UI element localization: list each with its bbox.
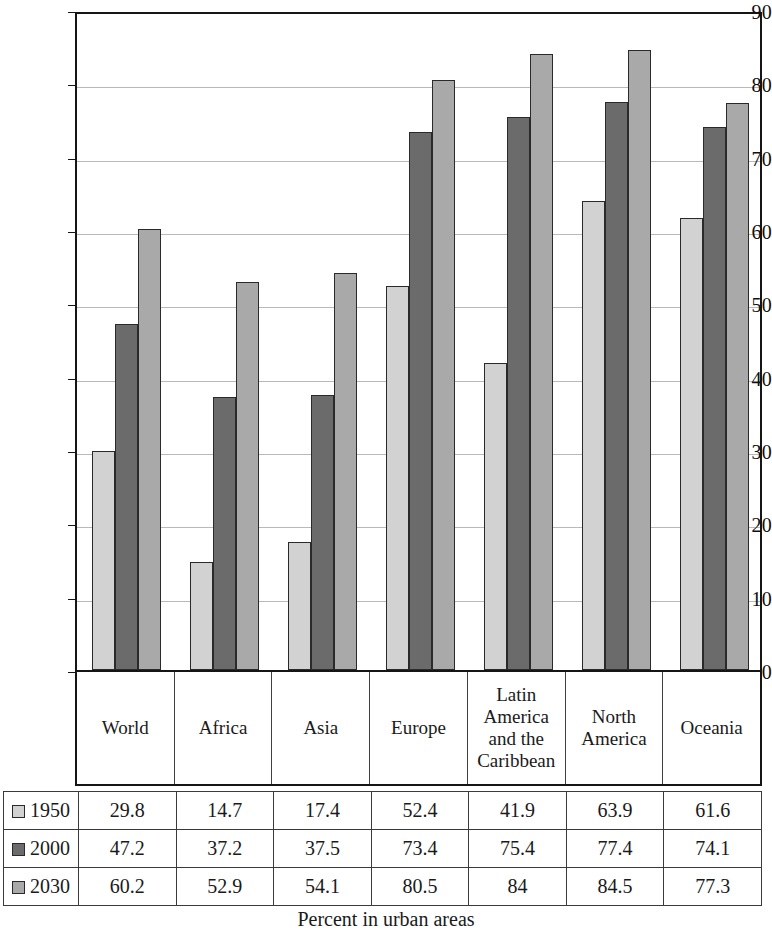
bar [530,54,553,670]
table-cell-value: 63.9 [566,792,664,830]
category-cell: Oceania [663,672,760,784]
table-cell-value: 41.9 [469,792,567,830]
y-tick-mark-60 [68,232,75,233]
table-cell-value: 17.4 [274,792,372,830]
y-tick-mark-30 [68,452,75,453]
bar [628,50,651,670]
legend-cell-2000: 2000 [4,830,79,868]
category-cell: Asia [272,672,370,784]
table-cell-value: 84 [469,868,567,906]
table-row: 200047.237.237.573.475.477.474.1 [4,830,762,868]
bar [582,201,605,670]
bar-group [77,14,175,670]
category-label: World [102,717,149,739]
table-row: 203060.252.954.180.58484.577.3 [4,868,762,906]
category-cell: LatinAmericaand theCaribbean [468,672,566,784]
y-tick-label-80: 80 [710,75,772,95]
bar-group [371,14,469,670]
data-table-body: 195029.814.717.452.441.963.961.6200047.2… [4,792,762,906]
legend-cell-1950: 1950 [4,792,79,830]
category-cell: Europe [370,672,468,784]
bar-group [273,14,371,670]
table-cell-value: 52.9 [176,868,274,906]
table-cell-value: 37.5 [274,830,372,868]
bar [311,395,334,670]
table-cell-value: 84.5 [566,868,664,906]
y-tick-label-30: 30 [710,442,772,462]
y-tick-label-60: 60 [710,222,772,242]
bar [190,562,213,670]
bar-group [568,14,666,670]
bar [507,117,530,670]
chart-caption: Percent in urban areas [0,908,772,930]
data-value-table: 195029.814.717.452.441.963.961.6200047.2… [3,791,762,906]
table-cell-value: 77.4 [566,830,664,868]
category-label: Africa [199,717,248,739]
bar [288,542,311,670]
bar [213,397,236,670]
bar [138,229,161,670]
category-label: Oceania [681,717,743,739]
bar [605,102,628,670]
table-cell-value: 47.2 [79,830,177,868]
bar [432,80,455,670]
y-tick-mark-80 [68,85,75,86]
bar-group [175,14,273,670]
table-cell-value: 60.2 [79,868,177,906]
y-tick-mark-0 [68,672,75,673]
legend-swatch-icon [12,805,25,818]
y-tick-label-20: 20 [710,515,772,535]
y-tick-mark-40 [68,379,75,380]
table-cell-value: 74.1 [664,830,762,868]
bar [484,363,507,670]
table-cell-value: 73.4 [371,830,469,868]
y-tick-mark-70 [68,159,75,160]
table-cell-value: 52.4 [371,792,469,830]
category-label: LatinAmericaand theCaribbean [477,684,555,772]
y-tick-label-90: 90 [710,2,772,22]
category-label-row: WorldAfricaAsiaEuropeLatinAmericaand the… [75,672,762,786]
category-cell: Africa [175,672,273,784]
category-cell: NorthAmerica [566,672,664,784]
table-cell-value: 14.7 [176,792,274,830]
category-label: Asia [303,717,338,739]
plot-area [75,12,762,672]
table-cell-value: 54.1 [274,868,372,906]
bar [92,451,115,670]
category-cell: World [77,672,175,784]
table-cell-value: 80.5 [371,868,469,906]
y-tick-label-50: 50 [710,295,772,315]
category-label: Europe [391,717,446,739]
legend-label: 2030 [30,875,70,897]
bar [115,324,138,670]
y-tick-mark-20 [68,525,75,526]
legend-swatch-icon [12,881,25,894]
table-cell-value: 75.4 [469,830,567,868]
bar [680,218,703,670]
legend-label: 1950 [30,799,70,821]
plot-wrapper: 0102030405060708090 [0,0,772,676]
y-tick-label-70: 70 [710,149,772,169]
bar [386,286,409,670]
bar-group [666,14,764,670]
y-tick-mark-50 [68,305,75,306]
table-cell-value: 61.6 [664,792,762,830]
y-tick-label-40: 40 [710,369,772,389]
y-tick-mark-90 [68,12,75,13]
bar [409,132,432,670]
bar [334,273,357,670]
table-row: 195029.814.717.452.441.963.961.6 [4,792,762,830]
category-label: NorthAmerica [581,706,646,750]
bar [236,282,259,670]
legend-label: 2000 [30,837,70,859]
table-cell-value: 77.3 [664,868,762,906]
table-cell-value: 37.2 [176,830,274,868]
y-tick-mark-10 [68,599,75,600]
urbanization-bar-chart-figure: 0102030405060708090 WorldAfricaAsiaEurop… [0,0,772,930]
legend-swatch-icon [12,843,25,856]
legend-cell-2030: 2030 [4,868,79,906]
table-cell-value: 29.8 [79,792,177,830]
y-tick-label-10: 10 [710,589,772,609]
bar-group [470,14,568,670]
